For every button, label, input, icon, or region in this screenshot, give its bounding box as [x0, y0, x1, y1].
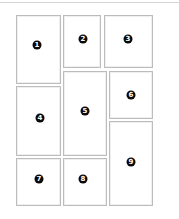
number-badge-7: 7: [35, 175, 44, 184]
panel-1: [16, 15, 61, 84]
number-badge-6: 6: [127, 91, 136, 100]
number-badge-3: 3: [124, 35, 133, 44]
top-rule: [0, 2, 179, 3]
number-badge-2: 2: [79, 35, 88, 44]
number-badge-1: 1: [33, 41, 42, 50]
number-badge-4: 4: [36, 114, 45, 123]
number-badge-5: 5: [81, 107, 90, 116]
number-badge-8: 8: [79, 175, 88, 184]
number-badge-9: 9: [127, 158, 136, 167]
